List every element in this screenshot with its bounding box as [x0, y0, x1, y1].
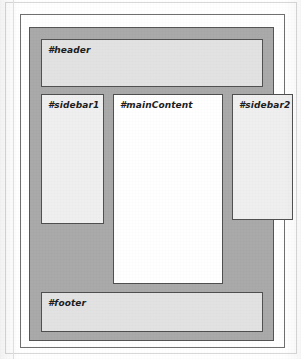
- page-gutter-line: [13, 0, 14, 359]
- sidebar1-label: #sidebar1: [48, 101, 99, 110]
- header-box: #header: [41, 39, 263, 87]
- figure-page-box: #container #header #sidebar1 #mainConten…: [20, 14, 285, 348]
- footer-label: #footer: [48, 299, 86, 308]
- container-box: #header #sidebar1 #mainContent #sidebar2…: [29, 27, 274, 341]
- footer-box: #footer: [41, 292, 263, 332]
- header-label: #header: [48, 46, 91, 55]
- sidebar1-box: #sidebar1: [41, 94, 104, 224]
- sidebar2-box: #sidebar2: [232, 94, 293, 220]
- sidebar2-label: #sidebar2: [239, 101, 290, 110]
- main-content-box: #mainContent: [113, 94, 223, 284]
- scanned-figure: #container #header #sidebar1 #mainConten…: [0, 0, 301, 359]
- main-content-label: #mainContent: [120, 101, 193, 110]
